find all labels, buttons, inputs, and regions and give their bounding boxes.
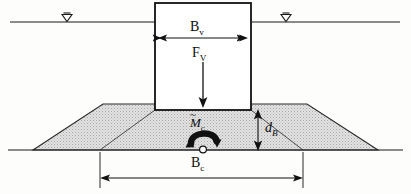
box-width-label: Bv [190,20,204,37]
base-width-label: Bc [191,156,204,173]
moment-label: ~ Mc [190,116,205,132]
vertical-force-label: FV [192,46,206,63]
embedment-depth-label: dB [265,121,278,138]
figure-canvas: Bv FV ~ Mc dB Bc [0,0,411,194]
foundation-diagram-svg [0,0,411,194]
water-table-triangle-left-icon [62,13,72,22]
moment-tilde-accent: ~ [190,109,196,120]
pivot-circle-icon [200,146,207,153]
water-table-triangle-right-icon [281,13,291,22]
